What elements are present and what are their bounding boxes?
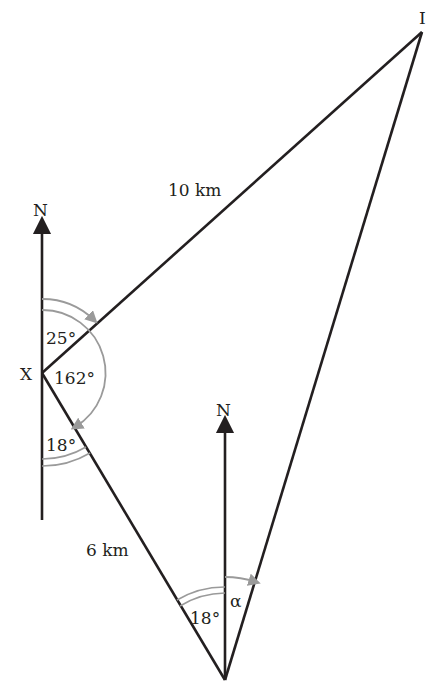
angle-label-25: 25° [46, 328, 76, 348]
side-x-to-top [42, 32, 422, 373]
vertex-label-x: X [20, 364, 33, 384]
north-label-bottom: N [216, 400, 231, 420]
angle-label-18-bottom: 18° [190, 608, 220, 628]
arc-alpha [225, 577, 256, 582]
north-label-x: N [33, 200, 48, 220]
side-label-10km: 10 km [168, 180, 221, 200]
bearing-diagram: N N I X 10 km 6 km 25° 162° 18° 18° α [0, 0, 426, 697]
side-top-to-bottom [225, 32, 422, 680]
vertex-label-top: I [419, 8, 426, 28]
side-x-to-bottom [42, 373, 225, 680]
angle-label-162: 162° [54, 368, 95, 388]
angle-label-alpha: α [230, 591, 242, 611]
side-label-6km: 6 km [86, 540, 129, 560]
angle-label-18-x: 18° [46, 435, 76, 455]
